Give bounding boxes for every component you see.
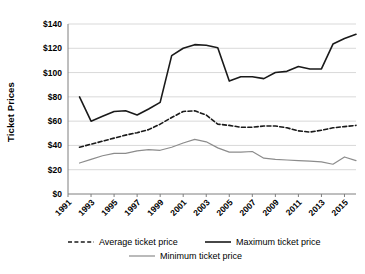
chart-background — [0, 0, 365, 274]
legend-label-1: Average ticket price — [99, 237, 178, 247]
y-tick-label: $0 — [53, 189, 63, 199]
y-axis-title: Ticket Prices — [5, 82, 16, 142]
legend-label-2: Maximum ticket price — [236, 237, 321, 247]
legend-label-3: Minimum ticket price — [160, 251, 242, 261]
y-tick-label: $60 — [48, 116, 62, 126]
chart-canvas: Ticket Prices $0$20$40$60$80$100$120$140… — [0, 0, 365, 274]
y-tick-label: $80 — [48, 92, 62, 102]
ticket-prices-line-chart: Ticket Prices $0$20$40$60$80$100$120$140… — [0, 0, 365, 274]
y-tick-label: $20 — [48, 165, 62, 175]
y-tick-label: $140 — [43, 19, 62, 29]
y-tick-label: $100 — [43, 68, 62, 78]
y-tick-label: $40 — [48, 140, 62, 150]
y-tick-label: $120 — [43, 43, 62, 53]
